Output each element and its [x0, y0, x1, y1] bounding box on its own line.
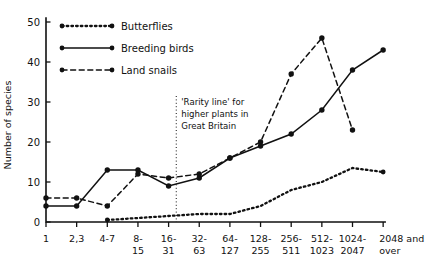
- x-tick-label-9: 512-: [311, 233, 333, 244]
- x-tick-label-2: 4-7: [100, 233, 116, 244]
- data-point-breeding-birds-0: [43, 203, 48, 208]
- legend-swatch-end-dot-0: [110, 24, 115, 29]
- y-tick-label-10: 10: [27, 177, 40, 188]
- x-tick-label-7: 128-: [250, 233, 272, 244]
- y-tick-label-0: 0: [34, 217, 40, 228]
- data-point-land-snails-4: [166, 175, 171, 180]
- x-tick-sublabel-6: 127: [221, 245, 239, 256]
- data-point-breeding-birds-11: [380, 47, 385, 52]
- x-tick-sublabel-10: 2047: [340, 245, 364, 256]
- x-tick-sublabel-4: 31: [163, 245, 175, 256]
- legend-label-land-snails: Land snails: [121, 65, 177, 76]
- rarity-label-line-1: higher plants in: [181, 109, 248, 119]
- data-point-breeding-birds-10: [350, 67, 355, 72]
- y-tick-label-20: 20: [27, 137, 40, 148]
- data-point-breeding-birds-8: [289, 131, 294, 136]
- legend-swatch-start-dot-0: [60, 24, 65, 29]
- y-tick-label-30: 30: [27, 97, 40, 108]
- x-tick-sublabel-7: 255: [251, 245, 269, 256]
- data-point-land-snails-5: [197, 171, 202, 176]
- y-tick-label-40: 40: [27, 57, 40, 68]
- legend-label-butterflies: Butterflies: [121, 21, 173, 32]
- x-tick-sublabel-5: 63: [193, 245, 205, 256]
- y-axis-title: Number of species: [2, 81, 13, 170]
- data-point-butterflies-0: [105, 218, 110, 223]
- x-axis-ticks: 12,34-78-1516-3132-6364-127128-255256-51…: [43, 222, 424, 256]
- rarity-label-line-0: 'Rarity line' for: [181, 97, 244, 107]
- x-tick-label-4: 16-: [161, 233, 177, 244]
- data-point-breeding-birds-4: [166, 183, 171, 188]
- legend-swatch-start-dot-1: [60, 46, 65, 51]
- x-tick-label-11: 2048 and: [379, 233, 424, 244]
- x-tick-label-3: 8-: [133, 233, 142, 244]
- data-point-land-snails-10: [350, 127, 355, 132]
- data-point-land-snails-9: [319, 35, 324, 40]
- x-tick-label-8: 256-: [280, 233, 302, 244]
- data-point-land-snails-1: [74, 195, 79, 200]
- x-tick-label-10: 1024-: [339, 233, 367, 244]
- data-point-land-snails-8: [289, 71, 294, 76]
- rarity-line-annotation: 'Rarity line' forhigher plants inGreat B…: [176, 96, 248, 222]
- data-point-breeding-birds-9: [319, 107, 324, 112]
- data-point-land-snails-3: [135, 171, 140, 176]
- data-point-land-snails-0: [43, 195, 48, 200]
- x-tick-label-1: 2,3: [69, 233, 84, 244]
- data-point-land-snails-6: [227, 155, 232, 160]
- legend-swatch-start-dot-2: [60, 68, 65, 73]
- x-tick-sublabel-11: over: [379, 245, 400, 256]
- data-point-land-snails-2: [105, 203, 110, 208]
- x-tick-sublabel-3: 15: [132, 245, 144, 256]
- x-tick-sublabel-8: 511: [282, 245, 300, 256]
- chart-container: 01020304050 12,34-78-1516-3132-6364-1271…: [0, 0, 433, 273]
- legend-label-breeding-birds: Breeding birds: [121, 43, 194, 54]
- x-tick-label-6: 64-: [222, 233, 238, 244]
- data-point-butterflies-9: [381, 170, 386, 175]
- chart-legend: ButterfliesBreeding birdsLand snails: [60, 21, 194, 76]
- legend-swatch-end-dot-2: [110, 68, 115, 73]
- species-line-chart: 01020304050 12,34-78-1516-3132-6364-1271…: [0, 0, 433, 273]
- chart-text-labels: Number of species: [2, 81, 13, 170]
- x-tick-label-0: 1: [43, 233, 49, 244]
- rarity-label-line-2: Great Britain: [181, 121, 236, 131]
- x-tick-label-5: 32-: [191, 233, 207, 244]
- x-tick-sublabel-9: 1023: [310, 245, 334, 256]
- data-point-breeding-birds-1: [74, 203, 79, 208]
- data-point-breeding-birds-2: [105, 167, 110, 172]
- y-tick-label-50: 50: [27, 17, 40, 28]
- legend-swatch-end-dot-1: [110, 46, 115, 51]
- data-point-land-snails-7: [258, 139, 263, 144]
